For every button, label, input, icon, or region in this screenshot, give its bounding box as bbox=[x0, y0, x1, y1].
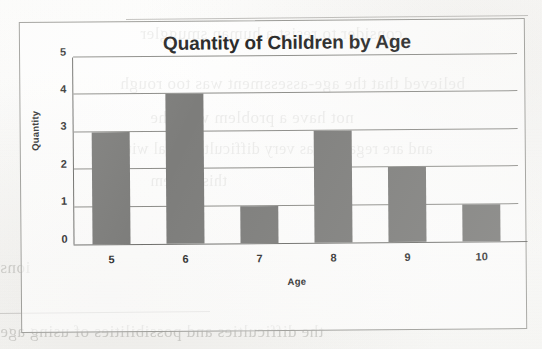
bar bbox=[165, 94, 205, 244]
chart-inner: Quantity of Children by Age Quantity 012… bbox=[20, 19, 526, 332]
bar-series bbox=[73, 54, 518, 244]
y-axis-tick-label: 1 bbox=[61, 195, 67, 207]
y-axis-tick-label: 3 bbox=[60, 120, 66, 132]
x-axis-tick-label: 7 bbox=[257, 252, 263, 264]
bar-slot bbox=[295, 55, 370, 243]
chart-frame: Quantity of Children by Age Quantity 012… bbox=[19, 18, 527, 333]
bar-slot bbox=[221, 56, 296, 244]
x-axis-title: Age bbox=[75, 274, 519, 288]
x-axis-tick-label: 8 bbox=[331, 252, 337, 264]
x-axis-tick-label: 10 bbox=[475, 250, 487, 262]
x-axis-tick-label: 5 bbox=[109, 253, 115, 265]
bar bbox=[388, 167, 427, 242]
y-axis-tick-label: 2 bbox=[61, 157, 67, 169]
bar-slot bbox=[369, 55, 444, 243]
bar bbox=[313, 130, 352, 242]
bar-slot bbox=[443, 54, 518, 242]
chart-title: Quantity of Children by Age bbox=[20, 30, 524, 56]
bar bbox=[91, 132, 130, 244]
x-axis-tick-label: 6 bbox=[183, 253, 189, 265]
y-axis-tick-label: 0 bbox=[61, 232, 67, 244]
bar bbox=[462, 204, 501, 242]
x-axis-tick-label: 9 bbox=[405, 251, 411, 263]
plot-area: 012345 5678910 bbox=[73, 54, 518, 244]
bar-slot bbox=[73, 57, 148, 245]
y-axis-tick-label: 4 bbox=[60, 83, 66, 95]
bar-slot bbox=[147, 56, 222, 244]
y-axis-tick-label: 5 bbox=[60, 45, 66, 57]
y-axis-title: Quantity bbox=[29, 111, 40, 151]
bar bbox=[240, 206, 279, 244]
